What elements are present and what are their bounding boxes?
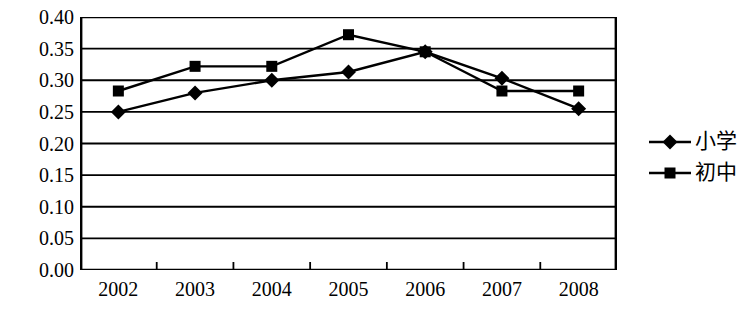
x-axis-tick-label: 2002 bbox=[80, 276, 157, 306]
y-axis-tick-label: 0.25 bbox=[6, 102, 74, 122]
data-point-marker bbox=[573, 86, 584, 97]
plot-svg bbox=[80, 17, 617, 270]
chart-legend: 小学初中 bbox=[648, 126, 747, 188]
y-axis-tick-label: 0.20 bbox=[6, 134, 74, 154]
legend-entry: 初中 bbox=[648, 157, 747, 188]
legend-label: 初中 bbox=[692, 162, 737, 183]
y-axis-tick-label: 0.40 bbox=[6, 7, 74, 27]
y-axis-tick-label: 0.10 bbox=[6, 197, 74, 217]
legend-diamond-marker-icon bbox=[648, 132, 692, 152]
y-axis-tick-label: 0.30 bbox=[6, 70, 74, 90]
y-axis-tick-label: 0.35 bbox=[6, 39, 74, 59]
x-axis-tick-label: 2004 bbox=[233, 276, 310, 306]
x-axis-tick-label: 2006 bbox=[387, 276, 464, 306]
data-point-marker bbox=[496, 86, 507, 97]
y-axis-tick-labels: 0.400.350.300.250.200.150.100.050.00 bbox=[0, 0, 74, 309]
y-axis-tick-label: 0.05 bbox=[6, 228, 74, 248]
data-point-marker bbox=[113, 86, 124, 97]
x-axis-tick-label: 2005 bbox=[310, 276, 387, 306]
legend-label: 小学 bbox=[692, 131, 737, 152]
y-axis-tick-label: 0.15 bbox=[6, 165, 74, 185]
x-axis-tick-labels: 2002200320042005200620072008 bbox=[80, 276, 617, 306]
legend-entry: 小学 bbox=[648, 126, 747, 157]
data-point-marker bbox=[343, 29, 354, 40]
data-point-marker bbox=[420, 46, 431, 57]
data-point-marker bbox=[190, 61, 201, 72]
line-chart-figure: 0.400.350.300.250.200.150.100.050.00 200… bbox=[0, 0, 747, 309]
y-axis-tick-label: 0.00 bbox=[6, 260, 74, 280]
plot-area bbox=[80, 17, 617, 270]
x-axis-tick-label: 2007 bbox=[464, 276, 541, 306]
x-axis-tick-label: 2008 bbox=[540, 276, 617, 306]
legend-square-marker-icon bbox=[648, 163, 692, 183]
x-axis-tick-label: 2003 bbox=[157, 276, 234, 306]
data-point-marker bbox=[266, 61, 277, 72]
